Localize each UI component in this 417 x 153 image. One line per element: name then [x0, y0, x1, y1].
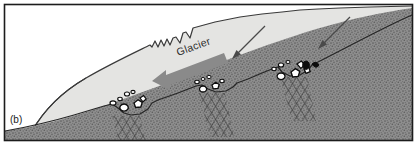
panel-label: (b): [10, 114, 22, 125]
caption-fragment: [10, 144, 310, 151]
figure-panel-b: Glacier (b): [0, 0, 417, 153]
glacier-plucking-diagram: Glacier (b): [0, 0, 417, 153]
